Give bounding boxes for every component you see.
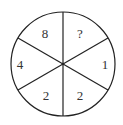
center-dot [62, 63, 64, 65]
number-wheel: 8 ? 1 2 2 4 [0, 0, 123, 125]
segment-bottom-right-value: 2 [77, 88, 84, 103]
segment-bottom-left-value: 2 [43, 88, 50, 103]
segment-right-value: 1 [102, 57, 109, 72]
segment-top-left-value: 8 [42, 26, 49, 41]
segment-left-value: 4 [17, 57, 24, 72]
segment-top-right-value: ? [77, 26, 83, 41]
